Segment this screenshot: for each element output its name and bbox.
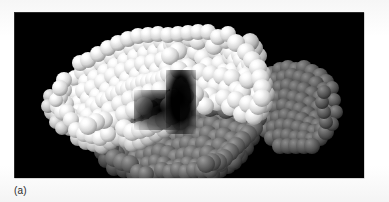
atom-sphere [52, 80, 68, 96]
atom-sphere [304, 138, 320, 154]
atom-sphere [197, 155, 215, 173]
molecular-model-image [14, 12, 364, 178]
atom-sphere [171, 103, 189, 121]
atom-sphere [135, 97, 153, 115]
atom-sphere [79, 117, 97, 135]
figure-image-panel [14, 12, 364, 178]
figure-root: (a) [0, 0, 389, 202]
atom-sphere [253, 89, 271, 107]
figure-caption-label: (a) [14, 184, 27, 197]
atom-sphere [317, 85, 331, 99]
atom-sphere [138, 166, 154, 178]
